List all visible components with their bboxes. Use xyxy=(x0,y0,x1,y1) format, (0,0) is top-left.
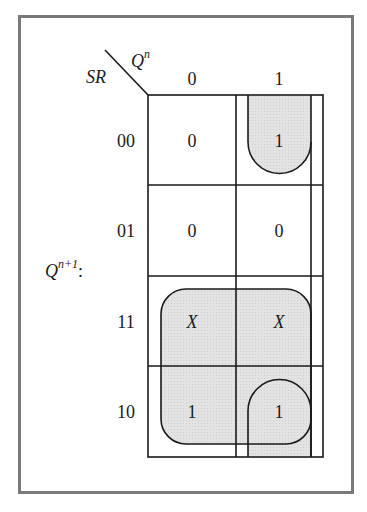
row-header-10: 10 xyxy=(117,403,135,421)
column-variable-label: Qn xyxy=(131,52,150,70)
kmap-graphics xyxy=(0,0,367,512)
row-header-01: 01 xyxy=(117,222,135,240)
cell-11-1: X xyxy=(274,313,285,331)
cell-01-0: 0 xyxy=(188,222,197,240)
column-header-0: 0 xyxy=(188,70,197,88)
cell-01-1: 0 xyxy=(275,222,284,240)
output-var-sup: n+1 xyxy=(58,257,78,271)
row-variable-label: SR xyxy=(86,68,106,86)
karnaugh-map: SR Qn 0 1 00 01 11 10 Qn+1: 0 1 0 0 X X … xyxy=(0,0,367,512)
cell-11-0: X xyxy=(187,313,198,331)
col-var-name: Q xyxy=(131,51,144,71)
row-header-11: 11 xyxy=(117,313,134,331)
cell-00-1: 1 xyxy=(275,132,284,150)
output-var-name: Q xyxy=(45,261,58,281)
output-label: Qn+1: xyxy=(45,262,83,280)
col-var-sup: n xyxy=(144,47,150,61)
row-header-00: 00 xyxy=(117,132,135,150)
cell-00-0: 0 xyxy=(188,132,197,150)
cell-10-1: 1 xyxy=(275,403,284,421)
cell-10-0: 1 xyxy=(188,403,197,421)
column-header-1: 1 xyxy=(275,70,284,88)
output-colon: : xyxy=(78,261,83,281)
